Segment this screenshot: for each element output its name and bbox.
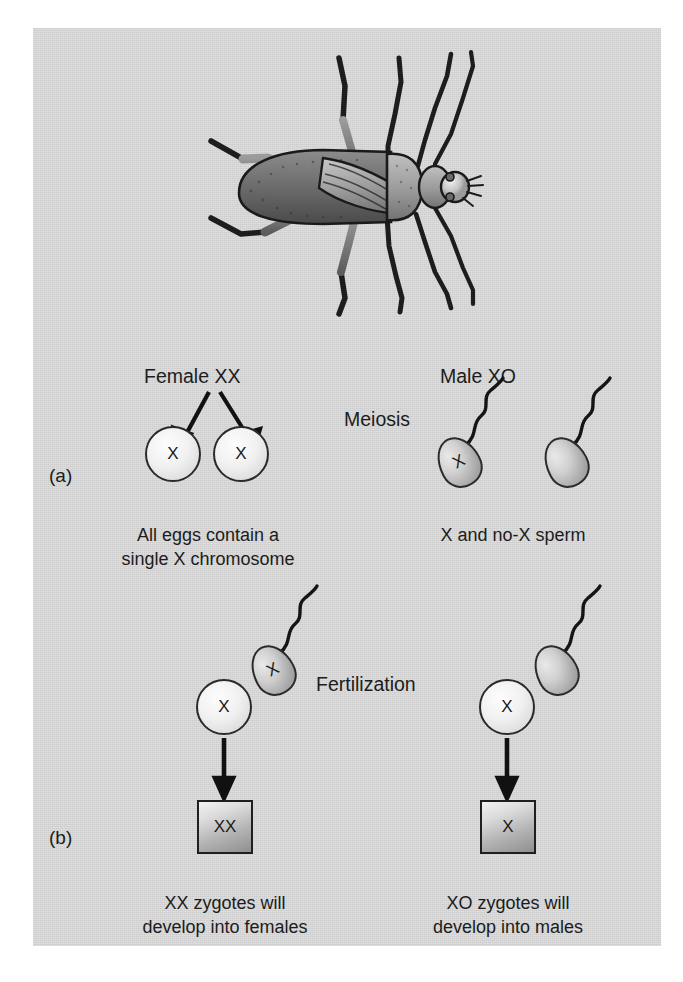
female-gamete-caption-line2: single X chromosome: [77, 548, 339, 571]
zygote-arrow-1: [208, 738, 248, 800]
zygote-xx-caption-line1: XX zygotes will: [95, 892, 355, 915]
zygote-arrow-2: [491, 738, 531, 800]
panel-b-letter: (b): [49, 826, 72, 851]
zygote-xo-caption-line1: XO zygotes will: [378, 892, 638, 915]
figure-panel: (a) Female XX Male XO Meiosis X X X All …: [33, 28, 661, 946]
fertilized-egg-1: X: [196, 679, 252, 735]
male-gamete-caption-line1: X and no-X sperm: [393, 524, 633, 547]
zygote-xo-caption-line2: develop into males: [378, 916, 638, 939]
zygote-xx: XX: [197, 800, 253, 854]
zygote-xo: X: [480, 800, 536, 854]
egg-cell-1: X: [145, 426, 201, 482]
female-genotype-heading: Female XX: [144, 364, 240, 389]
egg-cell-2: X: [213, 426, 269, 482]
insect-bug-illustration: [173, 36, 503, 326]
meiosis-stage-label: Meiosis: [344, 407, 410, 432]
female-gamete-caption-line1: All eggs contain a: [77, 524, 339, 547]
fertilized-egg-2: X: [479, 679, 535, 735]
zygote-xx-caption-line2: develop into females: [95, 916, 355, 939]
panel-a-letter: (a): [49, 464, 72, 489]
